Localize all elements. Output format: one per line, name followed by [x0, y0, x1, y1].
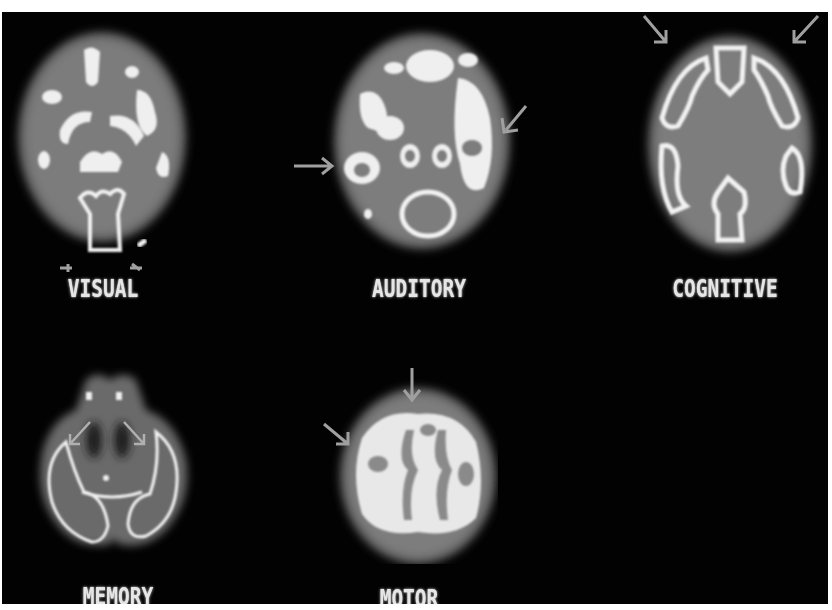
- arrow-icon: [60, 264, 142, 272]
- scan-auditory: [290, 18, 530, 268]
- brain-slice-motor: [298, 364, 498, 564]
- brain-slice-cognitive: [632, 12, 828, 272]
- label-memory: MEMORY: [71, 582, 165, 604]
- label-motor: MOTOR: [366, 584, 452, 604]
- brain-slice-auditory: [290, 18, 530, 268]
- scan-motor: [298, 364, 498, 564]
- scan-memory: [26, 362, 206, 562]
- scan-visual: [2, 12, 202, 272]
- label-visual: VISUAL: [52, 274, 153, 303]
- pet-scan-figure: VISUAL: [2, 12, 828, 604]
- brain-slice-memory: [26, 362, 206, 562]
- label-auditory: AUDITORY: [368, 274, 469, 303]
- label-cognitive: COGNITIVE: [667, 274, 784, 303]
- scan-cognitive: [632, 12, 828, 272]
- brain-slice-visual: [2, 12, 202, 272]
